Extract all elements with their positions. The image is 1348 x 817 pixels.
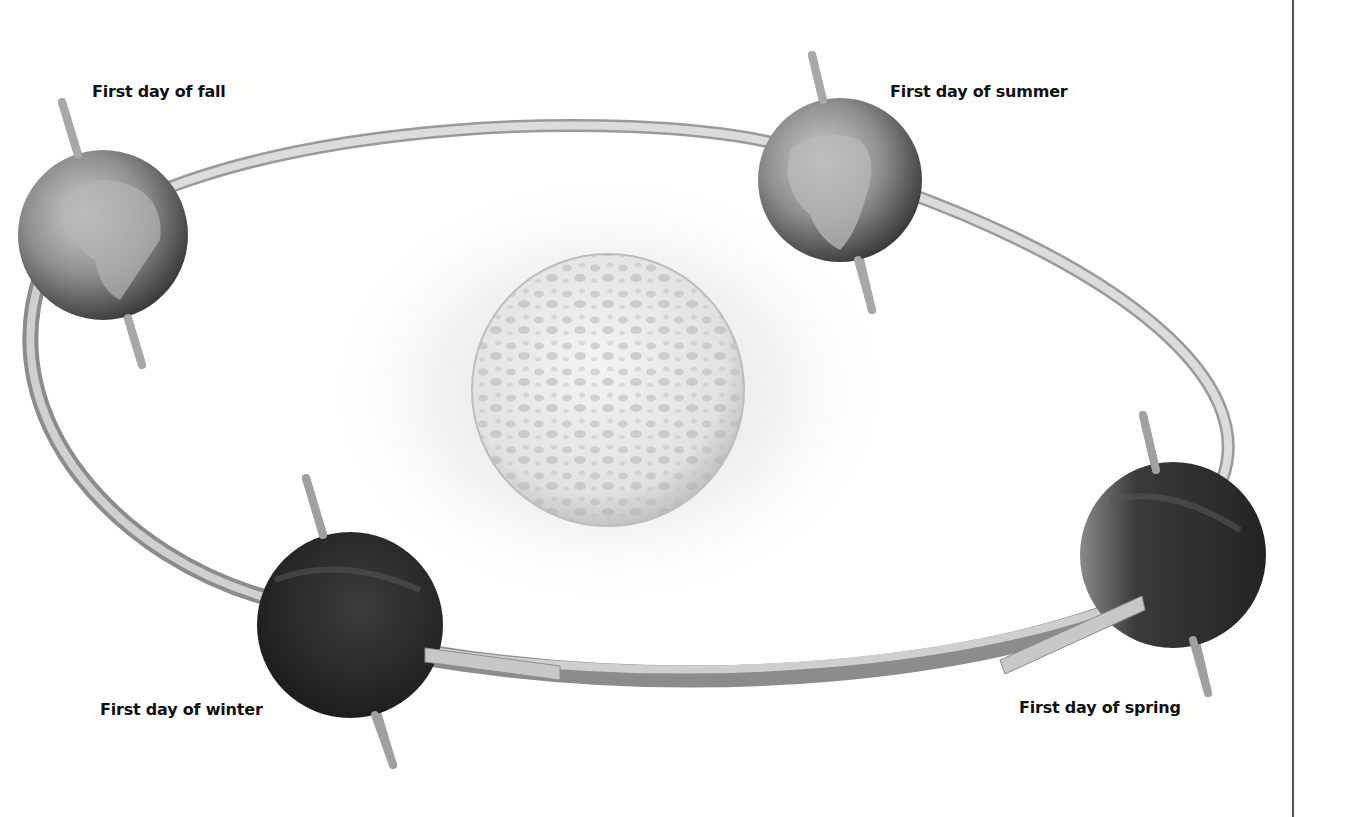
label-first-day-of-summer: First day of summer [890, 82, 1068, 101]
diagram-canvas [0, 0, 1348, 817]
earth-fall [18, 102, 188, 365]
sun [472, 254, 744, 526]
label-first-day-of-fall: First day of fall [92, 82, 226, 101]
label-first-day-of-winter: First day of winter [100, 700, 263, 719]
seasons-diagram: First day of fall First day of summer Fi… [0, 0, 1348, 817]
page-edge-divider [1292, 0, 1294, 817]
label-first-day-of-spring: First day of spring [1019, 698, 1181, 717]
